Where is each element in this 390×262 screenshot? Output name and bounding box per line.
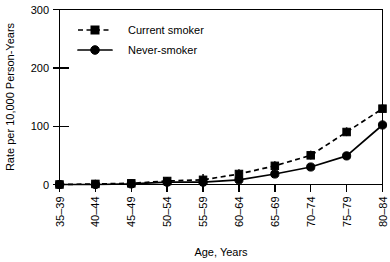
series-path [60,125,383,185]
y-tick-label-300: 300 [31,4,49,16]
x-tick-label-1: 40–44 [89,197,101,228]
legend-label: Never-smoker [128,44,197,56]
data-point-marker [307,163,315,171]
y-tick-label-0: 0 [43,179,49,191]
legend-label: Current smoker [128,24,204,36]
legend-marker [91,46,100,55]
x-tick-label-4: 55–59 [197,197,209,228]
legend-item-current-smoker: Current smoker [78,24,204,36]
plot-frame [60,10,383,185]
x-tick-label-9: 80–84 [377,197,389,228]
x-tick-label-8: 75–79 [341,197,353,228]
data-point-marker [127,180,135,188]
data-series-layer [55,104,386,189]
data-point-marker [271,162,279,170]
legend-marker [91,26,99,34]
axis-frame [60,10,383,185]
data-point-marker [55,180,63,188]
y-axis-tick-labels: 300 200 100 0 [31,4,49,191]
x-tick-label-5: 60–64 [233,197,245,228]
y-tick-label-100: 100 [31,120,49,132]
data-point-marker [163,178,171,186]
series-never-smoker [55,120,386,188]
x-tick-label-3: 50–54 [161,197,173,228]
x-axis-ticks [60,185,383,192]
chart-legend: Current smokerNever-smoker [78,24,204,56]
x-tick-label-0: 35–39 [54,197,66,228]
data-point-marker [199,178,207,186]
y-axis-title: Rate per 10,000 Person-Years [4,22,16,171]
series-current-smoker [56,104,387,188]
x-axis-title: Age, Years [194,246,248,258]
x-tick-label-7: 70–74 [305,197,317,228]
series-path [60,109,383,185]
legend-item-never-smoker: Never-smoker [78,44,197,56]
x-axis-tick-labels: 35–3940–4445–4950–5455–5960–6465–6970–74… [54,197,389,228]
data-point-marker [271,170,279,178]
data-point-marker [379,105,387,113]
data-point-marker [235,176,243,184]
data-point-marker [91,180,99,188]
x-tick-label-6: 65–69 [269,197,281,228]
rate-by-age-line-chart: 300 200 100 0 Rate per 10,000 Person-Yea… [0,0,390,262]
y-axis-ticks [53,10,60,185]
data-point-marker [343,152,351,160]
y-tick-label-200: 200 [31,62,49,74]
chart-container: 300 200 100 0 Rate per 10,000 Person-Yea… [0,0,390,262]
y-axis-inner-ticks [60,68,69,126]
data-point-marker [307,152,315,160]
data-point-marker [378,121,386,129]
data-point-marker [343,128,351,136]
x-tick-label-2: 45–49 [125,197,137,228]
